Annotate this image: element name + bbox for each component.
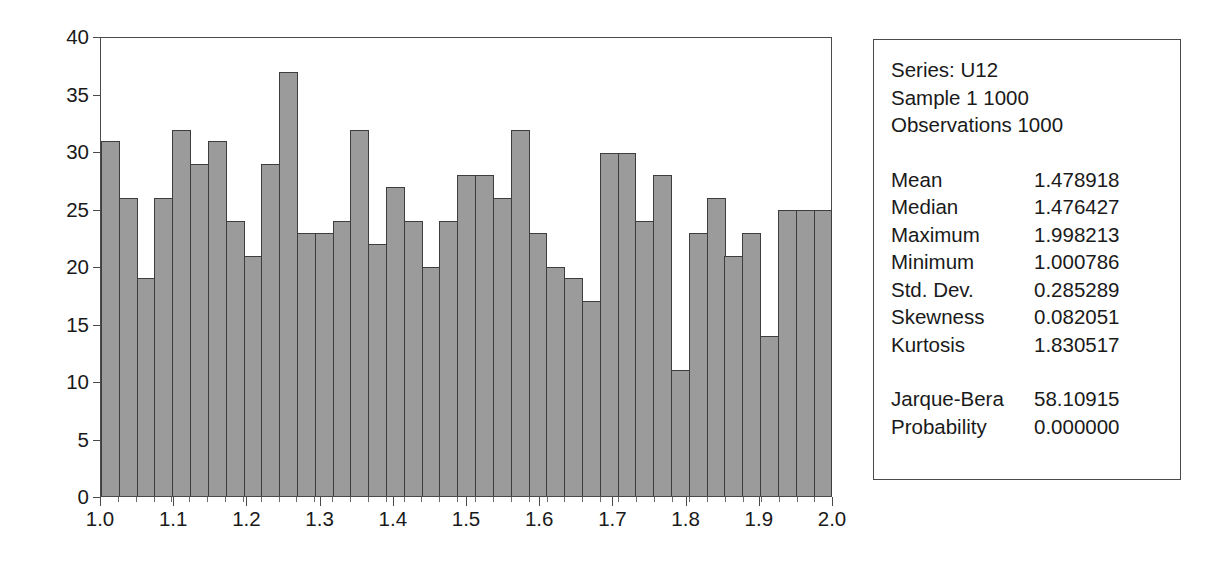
histogram-bar: [422, 267, 441, 496]
x-axis-tick-label: 1.4: [379, 509, 408, 530]
x-axis-tick: [759, 497, 760, 506]
x-axis-tick-label: 2.0: [818, 509, 847, 530]
histogram-bar: [778, 210, 797, 496]
x-axis-minor-tick: [797, 497, 798, 502]
x-axis: 1.01.11.21.31.41.51.61.71.81.92.0: [100, 497, 832, 527]
x-axis-minor-tick: [475, 497, 476, 502]
x-axis-minor-tick: [814, 497, 815, 502]
histogram-bar: [297, 233, 316, 496]
x-axis-minor-tick: [386, 497, 387, 502]
y-axis-tick: [93, 95, 100, 96]
x-axis-minor-tick: [296, 497, 297, 502]
x-axis-tick: [320, 497, 321, 506]
histogram-bar: [814, 210, 833, 496]
x-axis-tick: [686, 497, 687, 506]
histogram-bar: [635, 221, 654, 496]
x-axis-tick: [100, 497, 101, 506]
histogram-bar: [600, 153, 619, 497]
histogram-bar: [279, 72, 298, 496]
x-axis-minor-tick: [761, 497, 762, 502]
x-axis-minor-tick: [618, 497, 619, 502]
histogram-chart: 4035302520151050 1.01.11.21.31.41.51.61.…: [0, 0, 860, 561]
x-axis-minor-tick: [689, 497, 690, 502]
y-axis-tick-label: 35: [66, 84, 89, 105]
stat-value: 58.10915: [1034, 385, 1120, 413]
histogram-bars: [101, 38, 831, 496]
x-axis-tick: [466, 497, 467, 506]
histogram-bar: [315, 233, 334, 496]
y-axis-tick: [93, 382, 100, 383]
histogram-page: 4035302520151050 1.01.11.21.31.41.51.61.…: [0, 0, 1230, 561]
y-axis-tick-label: 20: [66, 257, 89, 278]
histogram-bar: [742, 233, 761, 496]
histogram-bar: [653, 175, 672, 496]
stat-label: Minimum: [891, 248, 1034, 276]
x-axis-tick: [832, 497, 833, 506]
x-axis-minor-tick: [547, 497, 548, 502]
histogram-bar: [226, 221, 245, 496]
stat-label: Maximum: [891, 221, 1034, 249]
x-axis-tick-label: 1.9: [745, 509, 774, 530]
x-axis-minor-tick: [636, 497, 637, 502]
x-axis-minor-tick: [350, 497, 351, 502]
x-axis-minor-tick: [457, 497, 458, 502]
test-row: Jarque-Bera58.10915: [891, 385, 1180, 413]
x-axis-minor-tick: [511, 497, 512, 502]
x-axis-minor-tick: [600, 497, 601, 502]
x-axis-tick: [246, 497, 247, 506]
y-axis-tick-label: 25: [66, 199, 89, 220]
x-axis-minor-tick: [243, 497, 244, 502]
y-axis-tick-label: 0: [78, 487, 89, 508]
x-axis-tick-label: 1.5: [452, 509, 481, 530]
histogram-bar: [386, 187, 405, 496]
stat-label: Std. Dev.: [891, 276, 1034, 304]
histogram-bar: [546, 267, 565, 496]
x-axis-tick-label: 1.1: [159, 509, 188, 530]
observations-line: Observations 1000: [891, 111, 1180, 139]
x-axis-tick: [539, 497, 540, 506]
x-axis-minor-tick: [314, 497, 315, 502]
x-axis-tick-label: 1.2: [232, 509, 261, 530]
x-axis-minor-tick: [743, 497, 744, 502]
series-name-line: Series: U12: [891, 56, 1180, 84]
x-axis-minor-tick: [136, 497, 137, 502]
histogram-bar: [475, 175, 494, 496]
histogram-bar: [350, 130, 369, 496]
histogram-bar: [101, 141, 120, 496]
stat-row: Std. Dev.0.285289: [891, 276, 1180, 304]
x-axis-minor-tick: [225, 497, 226, 502]
sample-range-line: Sample 1 1000: [891, 84, 1180, 112]
x-axis-minor-tick: [154, 497, 155, 502]
y-axis-tick-label: 15: [66, 314, 89, 335]
y-axis-tick: [93, 152, 100, 153]
stat-label: Median: [891, 193, 1034, 221]
stat-row: Minimum1.000786: [891, 248, 1180, 276]
histogram-bar: [582, 301, 601, 496]
histogram-bar: [119, 198, 138, 496]
stat-row: Skewness0.082051: [891, 303, 1180, 331]
x-axis-tick-label: 1.7: [598, 509, 627, 530]
x-axis-minor-tick: [439, 497, 440, 502]
y-axis-tick: [93, 497, 100, 498]
stat-value: 0.000000: [1034, 413, 1120, 441]
histogram-bar: [457, 175, 476, 496]
stat-value: 1.830517: [1034, 331, 1120, 359]
stat-label: Kurtosis: [891, 331, 1034, 359]
x-axis-minor-tick: [564, 497, 565, 502]
x-axis-minor-tick: [404, 497, 405, 502]
y-axis-tick: [93, 210, 100, 211]
stat-row: Kurtosis1.830517: [891, 331, 1180, 359]
x-axis-minor-tick: [672, 497, 673, 502]
histogram-bar: [724, 256, 743, 496]
histogram-bar: [190, 164, 209, 496]
x-axis-minor-tick: [654, 497, 655, 502]
histogram-bar: [333, 221, 352, 496]
x-axis-minor-tick: [529, 497, 530, 502]
histogram-bar: [511, 130, 530, 496]
x-axis-minor-tick: [421, 497, 422, 502]
x-axis-minor-tick: [279, 497, 280, 502]
stat-value: 0.082051: [1034, 303, 1120, 331]
stat-label: Probability: [891, 413, 1034, 441]
histogram-bar: [261, 164, 280, 496]
stat-row: Mean1.478918: [891, 166, 1180, 194]
